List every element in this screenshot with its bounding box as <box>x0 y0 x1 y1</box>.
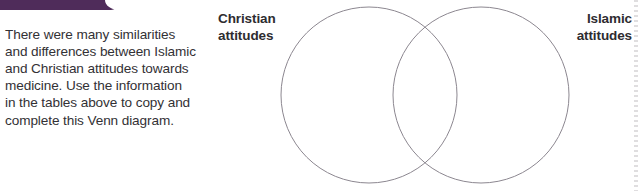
venn-label-christian-line1: Christian <box>218 10 308 27</box>
venn-label-christian-line2: attitudes <box>218 27 308 44</box>
instruction-text: There were many similarities and differe… <box>5 26 210 129</box>
venn-label-christian: Christian attitudes <box>218 10 308 44</box>
worksheet-panel: There were many similarities and differe… <box>0 0 638 191</box>
venn-label-islamic: Islamic attitudes <box>522 10 632 44</box>
purple-accent-bar <box>0 0 118 10</box>
page-edge-texture <box>634 0 638 191</box>
venn-label-islamic-line1: Islamic <box>522 10 632 27</box>
venn-label-islamic-line2: attitudes <box>522 27 632 44</box>
